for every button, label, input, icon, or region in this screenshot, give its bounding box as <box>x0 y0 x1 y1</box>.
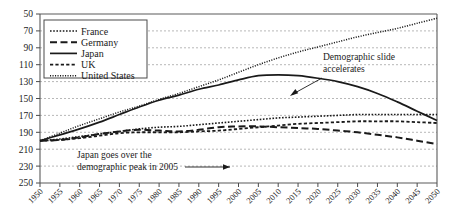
legend-label-uk: UK <box>81 59 96 70</box>
legend-label-united-states: United States <box>81 70 135 81</box>
y-tick-label: 110 <box>19 60 33 70</box>
y-tick-label: 150 <box>19 94 34 104</box>
y-tick-label: 130 <box>19 77 34 87</box>
y-tick-label: 210 <box>19 145 34 155</box>
legend-label-france: France <box>81 26 109 37</box>
annotation-japan-peak-line2: demographic peak in 2005 <box>77 162 178 172</box>
legend-label-germany: Germany <box>81 37 118 48</box>
y-tick-label: 170 <box>19 111 34 121</box>
annotation-slide-line1: Demographic slide <box>323 52 395 62</box>
y-tick-label: 230 <box>19 162 34 172</box>
y-tick-label: 190 <box>19 128 34 138</box>
y-tick-label: 50 <box>24 9 34 19</box>
y-tick-label: 250 <box>19 178 34 188</box>
chart-legend: FranceGermanyJapanUKUnited States <box>44 20 147 81</box>
annotation-slide-line2: accelerates <box>323 64 365 74</box>
legend-label-japan: Japan <box>81 48 104 59</box>
y-tick-label: 70 <box>24 26 34 36</box>
y-tick-label: 90 <box>24 43 34 53</box>
chart-container: 250230210190170150130110907050 195019551… <box>0 0 456 219</box>
annotation-japan-peak-line1: Japan goes over the <box>77 150 152 160</box>
line-chart: 250230210190170150130110907050 195019551… <box>0 0 456 219</box>
